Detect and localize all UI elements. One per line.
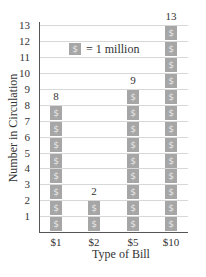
- bill-icon: $: [165, 90, 177, 104]
- bill-icon: $: [50, 154, 62, 168]
- y-tick-label: 10: [8, 67, 30, 79]
- bill-icon: $: [127, 201, 139, 215]
- y-tick-label: 9: [8, 83, 30, 95]
- y-tick-label: 8: [8, 99, 30, 111]
- bill-icon: $: [127, 122, 139, 136]
- y-tick-label: 6: [8, 131, 30, 143]
- bill-icon: $: [50, 122, 62, 136]
- y-axis-line: [39, 22, 40, 233]
- bill-icon: $: [127, 185, 139, 199]
- bill-icon: $: [127, 90, 139, 104]
- y-tick-label: 4: [8, 162, 30, 174]
- bill-icon: $: [88, 217, 100, 231]
- bill-icon: $: [127, 217, 139, 231]
- bill-icon: $: [165, 122, 177, 136]
- y-tick-label: 5: [8, 147, 30, 159]
- bill-icon: $: [165, 26, 177, 40]
- bar-value-label: 2: [79, 185, 109, 197]
- bar-value-label: 8: [41, 90, 71, 102]
- bill-icon: $: [127, 154, 139, 168]
- bill-icon: $: [127, 106, 139, 120]
- x-axis-line: [39, 232, 188, 233]
- bill-icon: $: [165, 106, 177, 120]
- legend-bill-icon: $: [69, 43, 81, 55]
- bill-icon: $: [88, 201, 100, 215]
- y-tick-label: 2: [8, 194, 30, 206]
- bill-icon: $: [50, 106, 62, 120]
- bill-icon: $: [165, 138, 177, 152]
- bill-icon: $: [165, 58, 177, 72]
- bill-icon: $: [165, 74, 177, 88]
- bill-icon: $: [50, 201, 62, 215]
- bill-icon: $: [165, 169, 177, 183]
- x-axis-label: Type of Bill: [0, 247, 206, 262]
- y-tick-label: 11: [8, 51, 30, 63]
- bill-icon: $: [50, 217, 62, 231]
- bill-icon: $: [50, 169, 62, 183]
- bill-icon: $: [127, 169, 139, 183]
- y-tick-label: 1: [8, 210, 30, 222]
- bill-icon: $: [165, 201, 177, 215]
- bill-icon: $: [165, 185, 177, 199]
- bill-icon: $: [50, 138, 62, 152]
- y-tick-label: 13: [8, 19, 30, 31]
- bill-icon: $: [165, 42, 177, 56]
- legend-text: = 1 million: [86, 42, 139, 57]
- bill-icon: $: [127, 138, 139, 152]
- bill-icon: $: [165, 154, 177, 168]
- y-tick-label: 3: [8, 178, 30, 190]
- y-tick-label: 7: [8, 115, 30, 127]
- bill-icon: $: [165, 217, 177, 231]
- bar-value-label: 13: [156, 10, 186, 22]
- y-tick-label: 12: [8, 35, 30, 47]
- bar-value-label: 9: [118, 74, 148, 86]
- bill-icon: $: [50, 185, 62, 199]
